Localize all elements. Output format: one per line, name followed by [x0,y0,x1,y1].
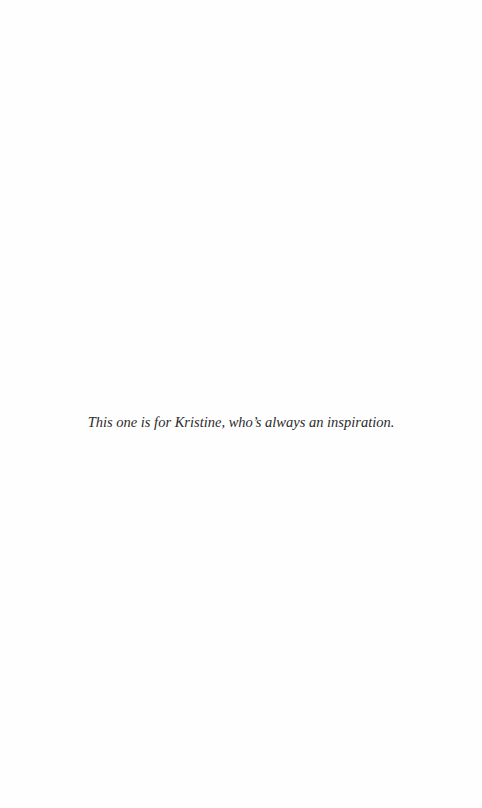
book-page: This one is for Kristine, who’s always a… [0,0,482,808]
dedication-text: This one is for Kristine, who’s always a… [0,413,482,431]
